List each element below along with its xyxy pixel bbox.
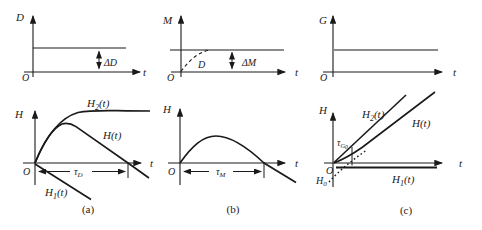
b-bot-y-label: H — [162, 103, 172, 115]
panel-a-top: D t O ΔD — [15, 11, 147, 83]
c-bot-h1-label: H1(t) — [391, 173, 415, 188]
a-bot-caption: (a) — [82, 203, 95, 216]
c-bot-h2-curve — [334, 95, 406, 163]
a-top-origin-label: O — [22, 72, 29, 83]
panel-b-bottom: H t O τM (b) — [162, 103, 299, 216]
b-bot-x-label: t — [295, 157, 299, 169]
a-bot-h-curve — [35, 123, 149, 178]
a-bot-tau-label: τD — [74, 166, 83, 179]
figure-canvas: D t O ΔD M t O D ΔM G t O H t — [0, 0, 482, 230]
c-bot-h2-label: H2(t) — [361, 108, 385, 123]
c-bot-caption: (c) — [400, 204, 413, 217]
a-top-delta-label: ΔD — [103, 57, 118, 68]
a-top-y-label: D — [15, 11, 24, 23]
a-bot-origin-label: O — [23, 166, 30, 177]
c-top-y-label: G — [319, 14, 327, 26]
panel-c-top: G t O — [319, 14, 457, 83]
b-top-dashed-label: D — [197, 59, 206, 70]
a-top-x-label: t — [143, 66, 147, 78]
b-bot-origin-label: O — [168, 166, 175, 177]
a-bot-h2-curve — [35, 111, 150, 163]
c-top-origin-label: O — [320, 72, 327, 83]
b-top-origin-label: O — [167, 72, 174, 83]
b-top-delta-label: ΔM — [241, 57, 257, 68]
c-bot-h-label: H(t) — [411, 117, 431, 130]
a-bot-x-label: t — [150, 157, 154, 169]
panel-b-top: M t O D ΔM — [162, 14, 299, 83]
figure-svg: D t O ΔD M t O D ΔM G t O H t — [0, 0, 482, 230]
a-bot-h1-label: H1(t) — [44, 186, 68, 201]
c-bot-origin-label: O — [326, 165, 333, 176]
c-bot-h0-label: H0 — [315, 175, 327, 188]
b-bot-caption: (b) — [227, 203, 240, 216]
b-top-y-label: M — [162, 14, 173, 26]
panel-c-bottom: H t O H2(t) H(t) H1(t) H0 τG0 (c) — [315, 92, 463, 217]
b-bot-tau-label: τM — [216, 166, 227, 179]
a-bot-h2-label: H2(t) — [86, 97, 110, 112]
a-bot-h-label: H(t) — [102, 129, 122, 142]
c-bot-x-label: t — [459, 157, 463, 169]
c-bot-tau-label: τG0 — [337, 138, 348, 150]
b-top-x-label: t — [295, 66, 299, 78]
c-bot-h0-dotted-curve — [329, 151, 366, 183]
c-bot-y-label: H — [318, 104, 328, 116]
a-bot-y-label: H — [14, 108, 24, 120]
c-top-x-label: t — [453, 66, 457, 78]
b-bot-h-curve — [180, 136, 296, 183]
panel-a-bottom: H t O H2(t) H(t) H1(t) τD (a) — [14, 97, 154, 216]
